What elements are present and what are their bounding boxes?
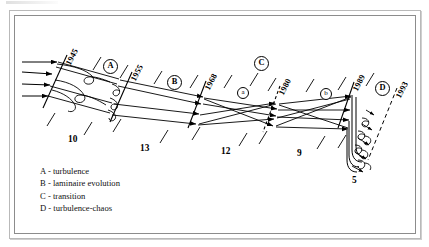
legend-item-c: C - transition [40, 190, 260, 202]
interval-label-9: 9 [297, 148, 302, 158]
inflow-arrows [22, 62, 57, 96]
zone-label-d: D [375, 81, 390, 96]
zone-d-eddies [355, 118, 371, 170]
zone-label-b-sub: b [320, 88, 332, 100]
zone-d-breakdown [347, 95, 366, 172]
legend-item-b: B - laminaire evolution [40, 177, 260, 189]
interval-label-5: 5 [352, 175, 357, 185]
interval-label-13: 13 [140, 143, 149, 153]
legend: A - turbulence B - laminaire evolution C… [40, 165, 260, 215]
boundary-1993-dashed [368, 88, 397, 160]
zone-label-c: C [254, 56, 269, 71]
interval-label-12: 12 [221, 146, 230, 156]
zone-c-a-crossing-streamlines [198, 98, 277, 126]
dimension-ticks [47, 57, 374, 149]
legend-item-a: A - turbulence [40, 165, 260, 177]
zone-label-b: B [167, 75, 182, 90]
figure-root: 1945 1955 1968 1980 1989 1993 A B C a b … [0, 0, 429, 247]
legend-item-d: D - turbulence-chaos [40, 202, 260, 214]
boundary-1955 [110, 72, 132, 122]
interval-label-10: 10 [68, 134, 77, 144]
zone-label-a: A [103, 59, 118, 74]
zone-label-a-sub: a [237, 87, 249, 99]
